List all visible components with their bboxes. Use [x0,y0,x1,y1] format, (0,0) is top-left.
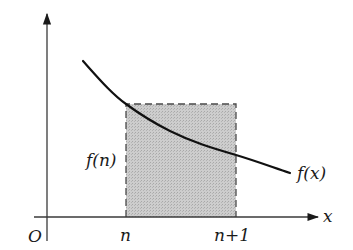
n-tick-label: n [120,225,131,245]
n-plus-1-tick-label: n+1 [214,225,250,245]
x-axis-label: x [323,206,333,226]
f-x-label: f(x) [295,163,326,183]
origin-label: O [28,226,42,246]
f-n-label: f(n) [84,150,117,170]
shaded-rectangle [126,104,236,217]
integral-diagram: O n n+1 x f(n) f(x) [0,0,353,250]
